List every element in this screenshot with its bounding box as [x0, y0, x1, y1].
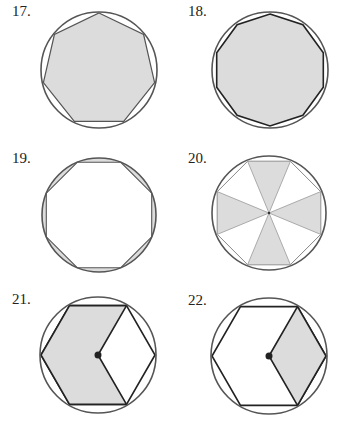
figure-21-hexagon-four-triangles [40, 297, 156, 413]
figure-17-heptagon [41, 12, 157, 128]
figure-20-octagon-triangles [212, 156, 326, 270]
center-point [266, 353, 273, 360]
center-point [268, 212, 270, 214]
heptagon [43, 13, 154, 121]
center-point [95, 352, 102, 359]
octagon [46, 162, 151, 267]
figure-22-hexagon-rhombus [211, 298, 327, 414]
figures-canvas [0, 0, 341, 423]
figure-18-decagon [212, 12, 328, 128]
decagon [217, 14, 324, 126]
figure-19-octagon-segments [42, 158, 156, 272]
